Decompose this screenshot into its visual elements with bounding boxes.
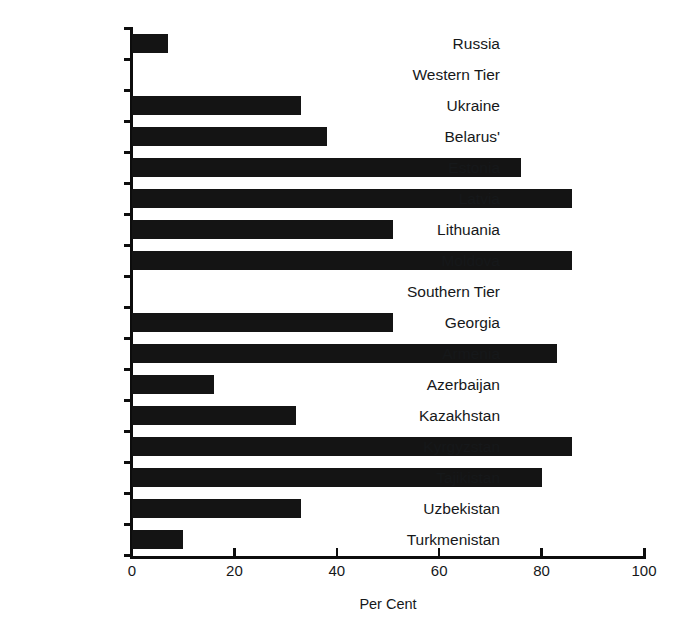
category-label: Azerbaijan [370, 369, 500, 400]
bar [132, 313, 393, 332]
bar-row: Western Tier [132, 59, 644, 90]
bar-row: Lithuania [132, 214, 644, 245]
y-tick [124, 461, 132, 464]
x-axis-title: Per Cent [132, 596, 644, 612]
category-label: Estonia [370, 152, 500, 183]
category-label: Russia [370, 28, 500, 59]
bar-row: Tajikistan [132, 462, 644, 493]
bar-chart: 020406080100 RussiaWestern TierUkraineBe… [0, 0, 685, 644]
x-tick-label: 40 [307, 562, 367, 579]
category-label: Lithuania [370, 214, 500, 245]
x-tick-label: 60 [409, 562, 469, 579]
bar-row: Uzbekistan [132, 493, 644, 524]
bar-row: Ukraine [132, 90, 644, 121]
y-tick [124, 182, 132, 185]
bar-row: Belarus' [132, 121, 644, 152]
x-tick-label: 0 [102, 562, 162, 579]
bar-row: Kazakhstan [132, 400, 644, 431]
category-label: Kazakhstan [370, 400, 500, 431]
bar [132, 530, 183, 549]
x-tick-label: 100 [614, 562, 674, 579]
bar [132, 406, 296, 425]
category-label: Georgia [370, 307, 500, 338]
category-label: Kyrgyzstan [370, 431, 500, 462]
y-tick [124, 213, 132, 216]
y-tick [124, 151, 132, 154]
bar-row: Azerbaijan [132, 369, 644, 400]
category-label: Belarus' [370, 121, 500, 152]
y-tick [124, 430, 132, 433]
y-tick [124, 368, 132, 371]
plot-area: RussiaWestern TierUkraineBelarus'Estonia… [132, 28, 644, 558]
bar-row: Estonia [132, 152, 644, 183]
category-label: Moldova [370, 245, 500, 276]
y-tick [124, 523, 132, 526]
category-label: Southern Tier [370, 276, 500, 307]
bar [132, 220, 393, 239]
y-tick [124, 275, 132, 278]
category-label: Turkmenistan [370, 524, 500, 555]
y-tick [124, 306, 132, 309]
y-tick [124, 492, 132, 495]
bar-row: Turkmenistan [132, 524, 644, 555]
y-tick [124, 27, 132, 30]
x-tick-label: 20 [204, 562, 264, 579]
bar [132, 96, 301, 115]
bar [132, 499, 301, 518]
category-label: Latvia [370, 183, 500, 214]
bar-row: Latvia [132, 183, 644, 214]
bar [132, 375, 214, 394]
bar-row: Kyrgyzstan [132, 431, 644, 462]
y-tick [124, 399, 132, 402]
category-label: Tajikistan [370, 462, 500, 493]
category-label: Armenia [370, 338, 500, 369]
bar [132, 189, 572, 208]
category-label: Western Tier [370, 59, 500, 90]
y-tick [124, 120, 132, 123]
y-tick [124, 244, 132, 247]
bar-row: Moldova [132, 245, 644, 276]
bar [132, 127, 327, 146]
bar-row: Russia [132, 28, 644, 59]
bar-row: Armenia [132, 338, 644, 369]
y-tick [124, 89, 132, 92]
category-label: Uzbekistan [370, 493, 500, 524]
bar-row: Georgia [132, 307, 644, 338]
y-tick [124, 58, 132, 61]
bar-row: Southern Tier [132, 276, 644, 307]
bar [132, 34, 168, 53]
category-label: Ukraine [370, 90, 500, 121]
x-tick-label: 80 [512, 562, 572, 579]
bar [132, 437, 572, 456]
y-tick [124, 337, 132, 340]
bar [132, 251, 572, 270]
